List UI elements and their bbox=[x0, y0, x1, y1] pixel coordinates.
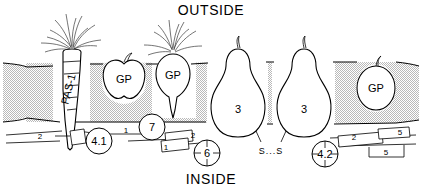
pear-left-body bbox=[211, 49, 265, 137]
disulfide-bond: S...S bbox=[256, 131, 286, 156]
band-label-2-mid: 2 bbox=[191, 131, 196, 140]
pear-right-stem bbox=[303, 36, 306, 48]
inside-label: INSIDE bbox=[186, 171, 236, 187]
organelle-gp-left: GP bbox=[103, 53, 145, 99]
band-label-2-right: 5 bbox=[398, 128, 403, 137]
band-label-2-left: 2 bbox=[38, 132, 43, 141]
pear-right-body bbox=[277, 49, 331, 137]
outside-label: OUTSIDE bbox=[178, 2, 244, 18]
membrane-protein-diagram: PAS-1 GP GP bbox=[0, 0, 422, 189]
callout-label-4-1: 4.1 bbox=[91, 135, 106, 147]
callout-label-4-2: 4.2 bbox=[317, 148, 332, 160]
gp-left-label: GP bbox=[116, 73, 132, 85]
organelle-pear-right: 3 bbox=[277, 36, 331, 137]
pear-right-label: 3 bbox=[301, 103, 307, 115]
band-label-5-right: 5 bbox=[384, 148, 389, 157]
organelle-pear-left: 3 bbox=[211, 36, 265, 137]
bond-leg-right bbox=[281, 131, 286, 142]
band-label-1-left: 1 bbox=[124, 126, 129, 135]
bond-label: S...S bbox=[259, 146, 284, 156]
bond-leg-left bbox=[256, 131, 261, 142]
flag-box-right-b bbox=[378, 127, 410, 139]
pear-left-label: 3 bbox=[235, 103, 241, 115]
gp-mid-label: GP bbox=[165, 69, 181, 81]
band-label-5-mid: 1 bbox=[164, 143, 169, 152]
callout-label-6: 6 bbox=[204, 147, 210, 159]
leaflet-line-left bbox=[6, 131, 62, 135]
gp-right-label: GP bbox=[368, 82, 384, 94]
pear-left-stem bbox=[237, 36, 240, 48]
gp-mid-leaves bbox=[144, 20, 202, 55]
band-label-1-right: 2 bbox=[352, 133, 357, 142]
callout-label-7: 7 bbox=[149, 121, 155, 133]
leaflet-line-left2 bbox=[6, 141, 60, 143]
pas1-leaves bbox=[41, 14, 101, 52]
flag-box-left bbox=[70, 129, 86, 145]
diagram-canvas: PAS-1 GP GP bbox=[0, 0, 422, 189]
